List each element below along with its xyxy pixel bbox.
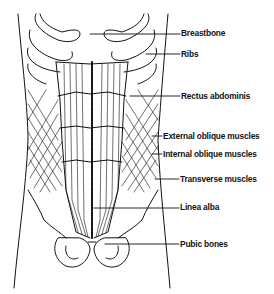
label-linea-alba: Linea alba	[180, 202, 219, 212]
ribs-right	[104, 14, 157, 84]
abdominal-muscles-diagram: Breastbone Ribs Rectus abdominis Externa…	[0, 0, 274, 294]
ribs-left	[27, 14, 80, 84]
label-external-oblique: External oblique muscles	[163, 131, 260, 141]
label-rectus-abdominis: Rectus abdominis	[181, 91, 250, 101]
oblique-hatching-left	[28, 90, 62, 192]
oblique-hatching-right	[122, 90, 158, 192]
label-breastbone: Breastbone	[181, 28, 225, 38]
label-internal-oblique: Internal oblique muscles	[163, 149, 257, 159]
label-pubic-bones: Pubic bones	[180, 239, 228, 249]
rectus-abdominis	[56, 62, 128, 238]
anatomy-illustration	[0, 0, 274, 294]
label-transverse: Transverse muscles	[180, 174, 257, 184]
torso-outline-left	[14, 14, 28, 288]
label-ribs: Ribs	[181, 49, 198, 59]
